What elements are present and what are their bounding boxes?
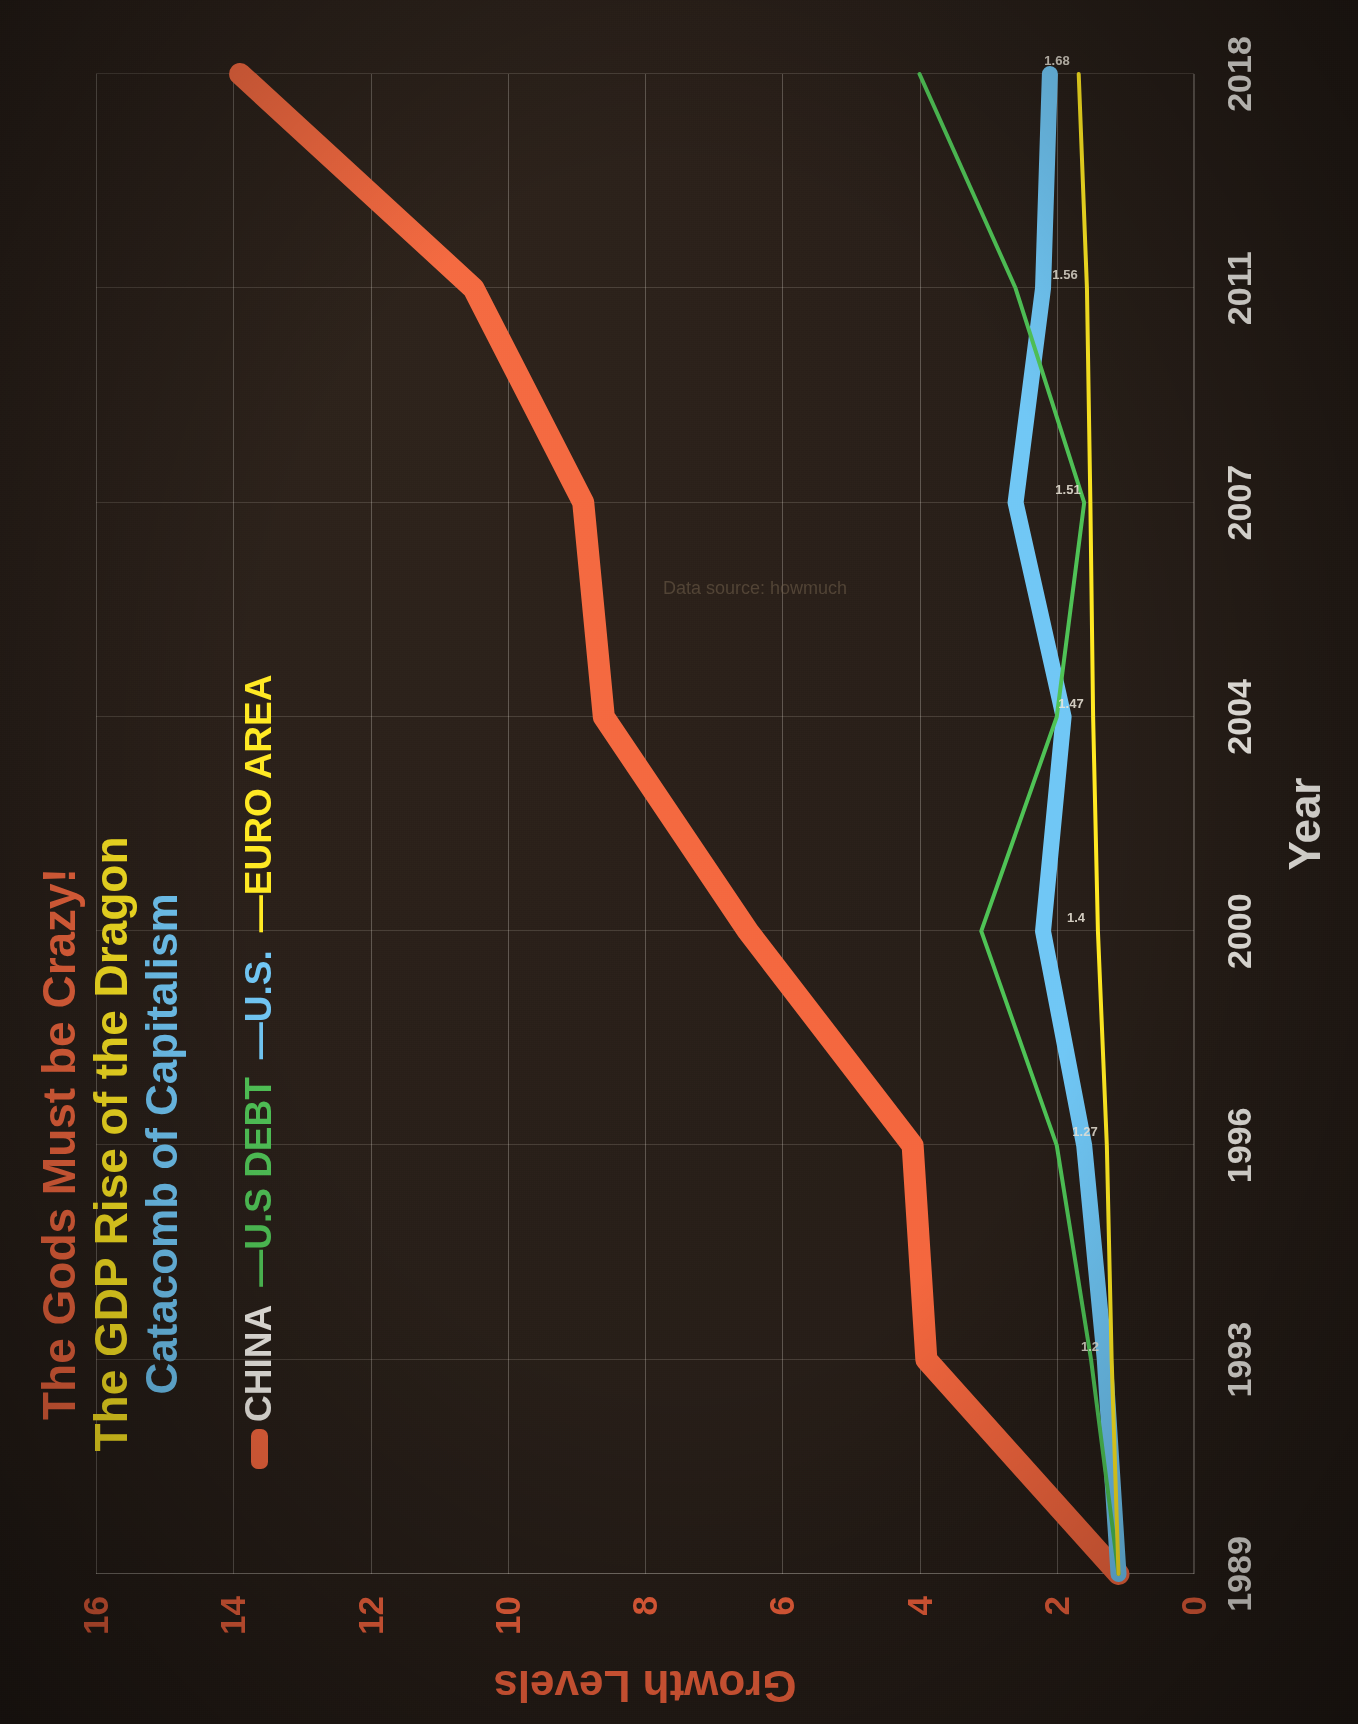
y-tick-label: 14	[213, 1596, 253, 1635]
chart-canvas: 0246810121416 19891993199620002004200720…	[0, 0, 1358, 1724]
x-tick-label: 2011	[1220, 251, 1259, 325]
legend-item-u.sdebt[interactable]: —U.S DEBT	[238, 1077, 280, 1287]
source-watermark: Data source: howmuch	[663, 578, 847, 599]
data-point-label: 1.2	[1081, 1338, 1099, 1353]
data-point-label: 1.68	[1044, 53, 1069, 68]
x-tick-label: 1989	[1220, 1536, 1259, 1612]
y-tick-label: 0	[1174, 1596, 1214, 1615]
x-tick-label: 2000	[1220, 893, 1259, 969]
data-point-label: 1.56	[1052, 267, 1077, 282]
x-tick-label: 2018	[1220, 36, 1259, 112]
y-tick-label: 16	[76, 1596, 116, 1635]
legend-item-euroarea[interactable]: —EURO AREA	[238, 675, 280, 933]
y-tick-label: 2	[1037, 1596, 1077, 1615]
y-tick-label: 8	[625, 1596, 665, 1615]
x-tick-label: 2004	[1220, 679, 1259, 755]
data-point-label: 1.51	[1056, 481, 1081, 496]
series-line-china	[240, 74, 1118, 1574]
y-tick-label: 4	[900, 1596, 940, 1615]
legend-label: —EURO AREA	[238, 675, 280, 933]
legend-swatch-icon	[251, 1429, 268, 1469]
x-axis-title: Year	[1280, 778, 1330, 871]
legend-item-china[interactable]: CHINA	[238, 1305, 280, 1469]
chart-title-line-2: The GDP Rise of the Dragon	[86, 764, 138, 1524]
legend-item-u.s.[interactable]: —U.S.	[238, 950, 280, 1059]
legend-label: CHINA	[238, 1305, 280, 1422]
x-tick-label: 1996	[1220, 1108, 1259, 1184]
chart-legend: CHINA—U.S DEBT—U.S.—EURO AREA	[238, 675, 280, 1469]
series-line-u-s-	[1016, 74, 1119, 1574]
data-point-label: 1.27	[1072, 1124, 1097, 1139]
y-tick-label: 6	[762, 1596, 802, 1615]
legend-label: —U.S.	[238, 950, 280, 1059]
data-point-label: 1.4	[1067, 910, 1085, 925]
x-tick-label: 1993	[1220, 1322, 1259, 1398]
chart-title-line-1: The Gods Must be Crazy!	[34, 764, 86, 1524]
chart-title-line-3: Catacomb of Capitalism	[137, 764, 186, 1524]
x-tick-label: 2007	[1220, 465, 1259, 541]
legend-label: —U.S DEBT	[238, 1077, 280, 1287]
data-point-label: 1.47	[1058, 695, 1083, 710]
rotated-chart-stage: 0246810121416 19891993199620002004200720…	[0, 0, 1358, 1724]
gridline	[1194, 74, 1195, 1574]
y-tick-label: 10	[488, 1596, 528, 1635]
title-block: The Gods Must be Crazy! The GDP Rise of …	[34, 764, 186, 1524]
y-tick-label: 12	[351, 1596, 391, 1635]
y-axis-title: Growth Levels	[493, 1661, 796, 1711]
